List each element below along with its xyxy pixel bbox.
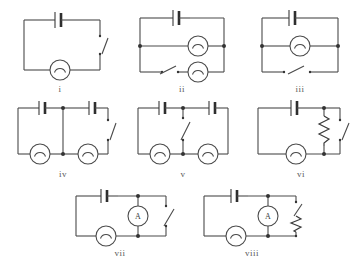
- circuit-label-ii: ii: [126, 84, 238, 94]
- battery-symbol: [32, 101, 52, 115]
- lamp-symbol: [50, 60, 70, 80]
- circuit-label-v: v: [128, 169, 238, 179]
- ammeter-letter: A: [135, 212, 141, 221]
- junction-dot: [336, 44, 340, 48]
- circuit-i: i: [6, 4, 114, 96]
- open-switch-symbol: [99, 35, 108, 55]
- circuit-iv: iv: [8, 96, 118, 182]
- lamp-symbol: [30, 144, 50, 164]
- open-switch-symbol: [181, 117, 190, 141]
- battery-symbol: [202, 101, 222, 115]
- circuit-label-iv: iv: [8, 169, 118, 179]
- battery-symbol: [92, 189, 118, 203]
- open-switch-symbol: [294, 201, 302, 216]
- circuit-label-viii: viii: [190, 248, 314, 258]
- circuit-vi: vi: [248, 96, 354, 182]
- circuit-label-vi: vi: [248, 169, 354, 179]
- circuit-label-iii: iii: [248, 84, 352, 94]
- battery-symbol: [280, 10, 306, 26]
- circuit-vii: A vii: [62, 186, 178, 264]
- lamp-symbol: [286, 144, 306, 164]
- circuit-ii: ii: [126, 4, 238, 96]
- junction-dot: [260, 44, 264, 48]
- junction-dot: [61, 106, 65, 110]
- junction-dot: [181, 152, 185, 156]
- junction-dot: [222, 44, 226, 48]
- battery-symbol: [164, 10, 190, 26]
- open-switch-symbol: [107, 119, 116, 141]
- circuit-label-i: i: [6, 84, 114, 94]
- lamp-symbol: [188, 62, 208, 82]
- junction-dot: [181, 106, 185, 110]
- battery-symbol: [46, 12, 72, 28]
- lamp-symbol: [150, 144, 170, 164]
- battery-symbol: [282, 100, 308, 116]
- circuit-v: v: [128, 96, 238, 182]
- open-switch-symbol: [283, 66, 311, 74]
- lamp-symbol: [290, 36, 310, 56]
- battery-symbol: [82, 101, 102, 115]
- junction-dot: [138, 44, 142, 48]
- circuit-viii: A viii: [190, 186, 314, 264]
- open-switch-symbol: [164, 205, 174, 227]
- lamp-symbol: [226, 226, 246, 246]
- junction-dot: [61, 152, 65, 156]
- circuit-label-vii: vii: [62, 248, 178, 258]
- circuit-diagram-sheet: i: [0, 0, 355, 266]
- lamp-symbol: [78, 144, 98, 164]
- battery-symbol: [152, 101, 172, 115]
- open-switch-symbol: [339, 119, 349, 141]
- battery-symbol: [222, 189, 248, 203]
- circuit-iii: iii: [248, 4, 352, 96]
- ammeter-letter: A: [265, 212, 271, 221]
- lamp-symbol: [198, 144, 218, 164]
- open-switch-symbol: [160, 66, 179, 74]
- lamp-symbol: [188, 36, 208, 56]
- lamp-symbol: [96, 226, 116, 246]
